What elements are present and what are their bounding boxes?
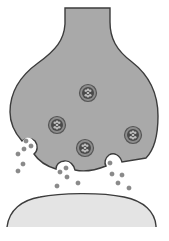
synaptic-vesicle [80, 85, 97, 102]
synapse-illustration [0, 0, 169, 241]
neurotransmitter [65, 175, 69, 179]
neurotransmitter [120, 173, 124, 177]
neurotransmitter [108, 161, 112, 165]
neurotransmitter [29, 144, 33, 148]
neurotransmitter [16, 152, 20, 156]
neurotransmitter [116, 181, 120, 185]
synaptic-vesicle [125, 127, 142, 144]
neurotransmitter [16, 169, 20, 173]
neurotransmitter [76, 181, 80, 185]
synaptic-vesicle [49, 117, 66, 134]
neurotransmitter [110, 172, 114, 176]
postsynaptic-bottom-mask [5, 227, 158, 231]
neurotransmitter [22, 147, 26, 151]
synaptic-vesicle [77, 140, 94, 157]
neurotransmitter [55, 184, 59, 188]
neurotransmitter [64, 166, 68, 170]
neurotransmitter [58, 170, 62, 174]
neurotransmitter [24, 139, 28, 143]
neurotransmitter [21, 162, 25, 166]
synapse-diagram [0, 0, 169, 241]
neurotransmitter [127, 186, 131, 190]
